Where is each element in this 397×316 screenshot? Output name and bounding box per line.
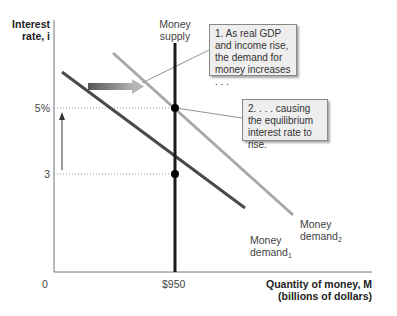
money-demand-2-label-line2: demand2 <box>300 230 342 246</box>
x-tick-950: $950 <box>162 278 185 290</box>
equilibrium-dot-new <box>171 104 179 112</box>
money-demand-2-label: Money demand2 <box>300 218 342 246</box>
x-tick-origin: 0 <box>42 278 48 290</box>
shift-arrow-icon <box>88 79 144 94</box>
y-axis-title-line2: rate, i <box>8 30 50 42</box>
money-supply-label-line2: supply <box>152 30 198 42</box>
money-demand-1-label-line1: Money <box>250 234 292 246</box>
equilibrium-dot-initial <box>171 170 179 178</box>
y-tick-5pct: 5% <box>30 102 50 114</box>
y-axis-title: Interest rate, i <box>8 18 50 42</box>
y-tick-3: 3 <box>30 168 50 180</box>
x-axis-title: Quantity of money, M (billions of dollar… <box>250 278 372 302</box>
x-axis-title-line2: (billions of dollars) <box>250 290 372 302</box>
money-demand-1-label: Money demand1 <box>250 234 292 262</box>
chart-canvas <box>0 0 397 316</box>
callout-demand-increase: 1. As real GDP and income rise, the dema… <box>209 24 297 76</box>
money-supply-label-line1: Money <box>152 18 198 30</box>
y-axis-title-line1: Interest <box>8 18 50 30</box>
money-supply-label: Money supply <box>152 18 198 42</box>
money-demand-1-label-line2: demand1 <box>250 246 292 262</box>
callout-rate-rise: 2. . . . causing the equilibrium interes… <box>242 99 328 141</box>
money-demand-2-label-line1: Money <box>300 218 342 230</box>
money-demand-1-curve <box>62 72 245 208</box>
up-arrow-icon <box>59 112 65 170</box>
x-axis-title-line1: Quantity of money, M <box>250 278 372 290</box>
callout2-leader <box>176 108 242 118</box>
